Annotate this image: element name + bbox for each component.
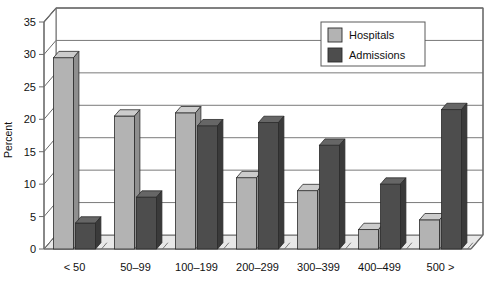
bar-front xyxy=(115,116,135,249)
bar-front xyxy=(176,113,196,249)
bar-chart: 05101520253035Percent< 5050–99100–199200… xyxy=(0,0,484,283)
bar-front xyxy=(237,178,257,249)
bar-side xyxy=(279,116,284,249)
bar-front xyxy=(76,223,96,249)
bar-side xyxy=(401,178,406,249)
chart-canvas: 05101520253035Percent< 5050–99100–199200… xyxy=(0,0,484,283)
x-axis-label: 400–499 xyxy=(358,261,401,273)
legend-swatch-hospitals xyxy=(328,28,342,42)
y-axis-label: 15 xyxy=(24,146,36,158)
legend-swatch-admissions xyxy=(328,48,342,62)
bar-front xyxy=(381,184,401,249)
bar-front xyxy=(54,58,74,249)
bar-side xyxy=(218,119,223,249)
x-axis-label: 100–199 xyxy=(175,261,218,273)
bar-front xyxy=(420,220,440,249)
y-axis-label: 35 xyxy=(24,16,36,28)
bar-front xyxy=(198,126,218,249)
x-axis-label: 300–399 xyxy=(297,261,340,273)
x-axis-label: 500 > xyxy=(427,261,455,273)
bar-side xyxy=(462,103,467,249)
bar-front xyxy=(259,123,279,249)
bar-front xyxy=(359,230,379,249)
y-axis-label: 30 xyxy=(24,48,36,60)
bar-side xyxy=(157,191,162,249)
x-axis-label: < 50 xyxy=(64,261,86,273)
y-axis-label: 25 xyxy=(24,81,36,93)
x-axis-label: 200–299 xyxy=(236,261,279,273)
y-axis-title: Percent xyxy=(2,122,14,158)
bar-front xyxy=(298,191,318,249)
y-axis-label: 20 xyxy=(24,113,36,125)
bar-front xyxy=(442,110,462,249)
legend-label-hospitals: Hospitals xyxy=(349,29,395,41)
bar-side xyxy=(74,51,79,249)
bar-front xyxy=(137,197,157,249)
y-axis-label: 5 xyxy=(30,211,36,223)
bar-side xyxy=(96,217,101,249)
legend-label-admissions: Admissions xyxy=(349,49,406,61)
bar-side xyxy=(340,139,345,249)
y-axis-label: 0 xyxy=(30,243,36,255)
x-axis-label: 50–99 xyxy=(120,261,151,273)
bar-front xyxy=(320,145,340,249)
y-axis-label: 10 xyxy=(24,178,36,190)
